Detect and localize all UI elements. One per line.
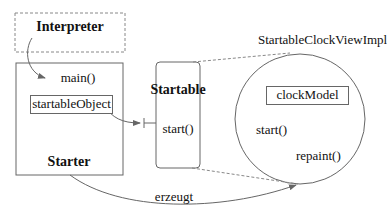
main-method-label: main() bbox=[61, 70, 96, 85]
erzeugt-label: erzeugt bbox=[155, 189, 193, 204]
interpreter-label: Interpreter bbox=[36, 19, 103, 34]
clock-model-field: clockModel bbox=[266, 86, 349, 105]
impl-repaint-method: repaint() bbox=[296, 148, 341, 163]
startable-box bbox=[156, 62, 200, 168]
startable-object-field: startableObject bbox=[30, 95, 113, 114]
startable-label: Startable bbox=[150, 82, 205, 97]
interpreter-main-arrow bbox=[28, 38, 45, 78]
starter-label: Starter bbox=[48, 154, 91, 169]
impl-title: StartableClockViewImpl bbox=[258, 32, 387, 47]
zoom-line-top bbox=[193, 53, 290, 62]
zoom-line-bottom bbox=[192, 168, 298, 184]
impl-start-method: start() bbox=[256, 122, 287, 137]
startable-start-method: start() bbox=[162, 121, 193, 136]
impl-circle bbox=[235, 54, 365, 184]
